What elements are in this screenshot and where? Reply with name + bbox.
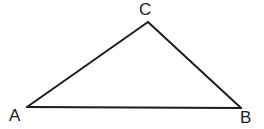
triangle-svg [0, 0, 264, 129]
triangle-edge-ac [27, 22, 148, 107]
triangle-edge-cb [148, 22, 241, 108]
triangle-shape [27, 22, 241, 108]
vertex-label-b: B [240, 109, 251, 126]
vertex-label-c: C [139, 1, 151, 18]
geometry-figure-canvas: A B C [0, 0, 264, 129]
vertex-label-a: A [9, 107, 20, 124]
triangle-edge-ba [27, 107, 241, 108]
